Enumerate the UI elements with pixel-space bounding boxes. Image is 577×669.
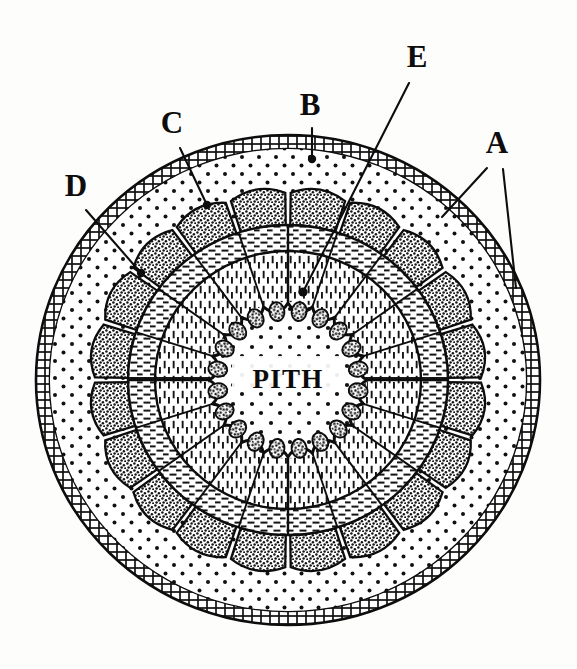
stem-cross-section-diagram: PITH ABCDE xyxy=(0,0,577,669)
label-E: E xyxy=(407,39,428,74)
label-D: D xyxy=(65,168,87,203)
figure-root: PITH ABCDE xyxy=(0,0,577,669)
leader-dot-E xyxy=(298,287,307,296)
leader-dot-B xyxy=(308,155,316,163)
label-C: C xyxy=(161,105,183,140)
leader-dot-C xyxy=(203,201,211,209)
pith-caption: PITH xyxy=(232,356,345,394)
label-A: A xyxy=(486,125,509,160)
label-B: B xyxy=(300,87,321,122)
pith-label: PITH xyxy=(253,364,324,394)
leader-dot-D xyxy=(137,269,145,277)
